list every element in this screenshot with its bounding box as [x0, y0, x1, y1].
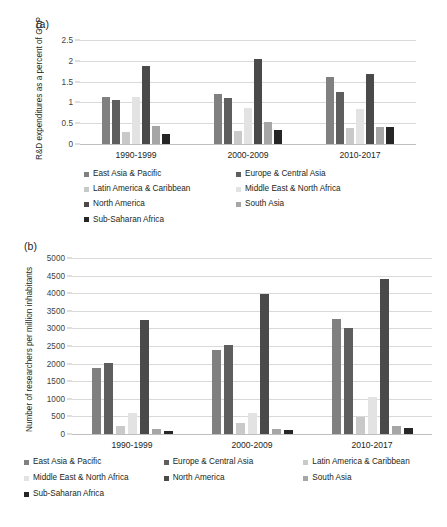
bar-north-america — [254, 59, 262, 144]
legend-item-europe-and-central-asia[interactable]: Europe & Central Asia — [164, 458, 300, 466]
panel-b-label: (b) — [24, 240, 37, 252]
bar-group — [312, 258, 432, 434]
legend-label: Europe & Central Asia — [245, 170, 326, 178]
y-axis-tick-label: 4000 — [47, 289, 65, 298]
chart-b-y-axis-title: Number of researchers per million inhabi… — [26, 254, 38, 444]
legend-item-north-america[interactable]: North America — [84, 200, 232, 208]
legend-label: Latin America & Caribbean — [312, 458, 409, 466]
y-axis-tick-label: 5000 — [47, 254, 65, 263]
y-axis-tick-label: 1500 — [47, 377, 65, 386]
legend-label: North America — [93, 200, 145, 208]
chart-a-legend: East Asia & PacificEurope & Central Asia… — [84, 170, 384, 224]
x-axis-label: 1990-1999 — [72, 440, 192, 450]
bar-middle-east-and-north-africa — [356, 109, 364, 144]
bar-south-asia — [392, 426, 401, 434]
bar-middle-east-and-north-africa — [132, 97, 140, 144]
legend-label: South Asia — [312, 474, 351, 482]
legend-swatch-icon — [24, 460, 29, 465]
legend-label: East Asia & Pacific — [93, 170, 161, 178]
bar-south-asia — [272, 429, 281, 434]
y-axis-tick-label: 4500 — [47, 271, 65, 280]
legend-swatch-icon — [84, 217, 89, 222]
y-axis-tick-label: 0.5 — [62, 119, 73, 128]
bar-sub-saharan-africa — [404, 428, 413, 434]
chart-a: 00.511.522.5 1990-19992000-20092010-2017 — [52, 34, 422, 164]
legend-item-latin-america-and-caribbean[interactable]: Latin America & Caribbean — [84, 185, 232, 193]
legend-item-latin-america-and-caribbean[interactable]: Latin America & Caribbean — [303, 458, 439, 466]
bar-middle-east-and-north-africa — [368, 397, 377, 434]
legend-swatch-icon — [236, 187, 241, 192]
bar-sub-saharan-africa — [162, 134, 170, 144]
chart-a-plot: 00.511.522.5 — [80, 40, 416, 144]
bar-groups — [80, 40, 416, 144]
bar-groups — [72, 258, 432, 434]
bar-sub-saharan-africa — [386, 127, 394, 144]
legend-swatch-icon — [303, 460, 308, 465]
bar-europe-and-central-asia — [336, 92, 344, 144]
legend-label: Sub-Saharan Africa — [93, 216, 164, 224]
bar-latin-america-and-caribbean — [116, 426, 125, 434]
bar-south-asia — [152, 429, 161, 434]
bar-latin-america-and-caribbean — [234, 131, 242, 144]
y-axis-tick-label: 2000 — [47, 359, 65, 368]
legend-label: Latin America & Caribbean — [93, 185, 190, 193]
bar-north-america — [140, 320, 149, 434]
y-axis-tick-label: 0 — [60, 430, 65, 439]
x-axis-label: 2010-2017 — [304, 150, 416, 160]
bar-sub-saharan-africa — [274, 130, 282, 144]
legend-swatch-icon — [24, 492, 29, 497]
gridline — [72, 434, 432, 435]
legend-label: North America — [173, 474, 225, 482]
y-axis-tick-label: 0 — [68, 140, 73, 149]
legend-item-south-asia[interactable]: South Asia — [303, 474, 439, 482]
panel-a: (a) R&D expenditures as a percent of GDP… — [0, 0, 447, 240]
legend-item-north-america[interactable]: North America — [164, 474, 300, 482]
legend-swatch-icon — [84, 187, 89, 192]
bar-middle-east-and-north-africa — [248, 413, 257, 434]
y-axis-tick-label: 1 — [68, 98, 73, 107]
x-axis-label: 2000-2009 — [192, 150, 304, 160]
y-axis-tick-label: 3000 — [47, 324, 65, 333]
chart-a-y-axis-title: R&D expenditures as a percent of GDP — [36, 30, 48, 160]
bar-north-america — [260, 294, 269, 434]
bar-group — [192, 40, 304, 144]
legend-swatch-icon — [84, 202, 89, 207]
legend-item-europe-and-central-asia[interactable]: Europe & Central Asia — [236, 170, 384, 178]
bar-north-america — [366, 74, 374, 144]
legend-item-sub-saharan-africa[interactable]: Sub-Saharan Africa — [84, 216, 232, 224]
legend-item-south-asia[interactable]: South Asia — [236, 200, 384, 208]
x-axis-label: 1990-1999 — [80, 150, 192, 160]
legend-swatch-icon — [164, 460, 169, 465]
bar-south-asia — [152, 126, 160, 144]
y-axis-tick-label: 2500 — [47, 342, 65, 351]
bar-latin-america-and-caribbean — [346, 128, 354, 144]
legend-label: Middle East & North Africa — [245, 185, 341, 193]
y-axis-tick-label: 1.5 — [62, 77, 73, 86]
legend-item-east-asia-and-pacific[interactable]: East Asia & Pacific — [84, 170, 232, 178]
y-axis-tick-label: 2.5 — [62, 36, 73, 45]
legend-item-sub-saharan-africa[interactable]: Sub-Saharan Africa — [24, 490, 160, 498]
x-axis-label: 2000-2009 — [192, 440, 312, 450]
y-axis-tick-label: 2 — [68, 56, 73, 65]
bar-east-asia-and-pacific — [212, 350, 221, 434]
bar-south-asia — [264, 122, 272, 144]
bar-north-america — [142, 66, 150, 144]
gridline — [80, 144, 416, 145]
legend-item-east-asia-and-pacific[interactable]: East Asia & Pacific — [24, 458, 160, 466]
y-axis-tick-label: 500 — [51, 412, 65, 421]
bar-east-asia-and-pacific — [92, 368, 101, 434]
legend-swatch-icon — [24, 476, 29, 481]
legend-swatch-icon — [164, 476, 169, 481]
panel-b: (b) Number of researchers per million in… — [0, 240, 447, 527]
legend-item-middle-east-and-north-africa[interactable]: Middle East & North Africa — [24, 474, 160, 482]
bar-group — [304, 40, 416, 144]
bar-europe-and-central-asia — [344, 328, 353, 434]
bar-east-asia-and-pacific — [326, 77, 334, 144]
bar-sub-saharan-africa — [164, 431, 173, 434]
bar-east-asia-and-pacific — [102, 97, 110, 144]
chart-b-x-axis-labels: 1990-19992000-20092010-2017 — [72, 440, 432, 450]
bar-europe-and-central-asia — [224, 98, 232, 144]
chart-b-legend: East Asia & PacificEurope & Central Asia… — [24, 458, 439, 499]
legend-item-middle-east-and-north-africa[interactable]: Middle East & North Africa — [236, 185, 384, 193]
bar-east-asia-and-pacific — [214, 94, 222, 144]
